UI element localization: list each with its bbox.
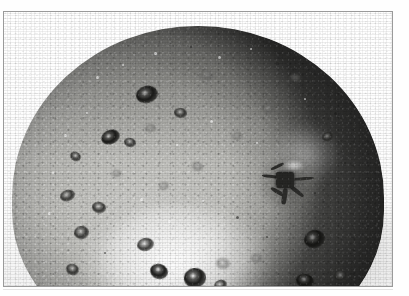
figure-frame	[3, 11, 393, 287]
photograph	[4, 12, 392, 286]
specular-highlight	[101, 204, 272, 286]
plate-underline-rule	[3, 289, 393, 290]
page-canvas	[0, 0, 409, 296]
secondary-highlight	[272, 125, 339, 184]
